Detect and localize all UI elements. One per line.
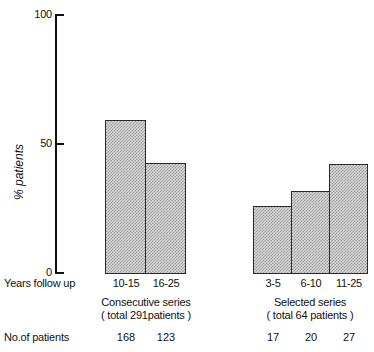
- series-caption-selected-line2: ( total 64 patients ): [251, 309, 369, 322]
- patient-count-11-25: 27: [323, 331, 374, 343]
- series-caption-selected: Selected series ( total 64 patients ): [251, 296, 369, 322]
- bar-3-5: [253, 206, 292, 274]
- x-tick-label-11-25: 11-25: [323, 277, 374, 289]
- series-caption-consecutive-line2: ( total 291patients ): [96, 309, 196, 322]
- row-label-years-follow-up: Years follow up: [4, 277, 75, 289]
- bar-6-10: [291, 191, 330, 274]
- row-label-no-of-patients: No.of patients: [4, 331, 69, 343]
- y-tick-mark-50: [57, 143, 64, 145]
- bar-16-25: [145, 163, 186, 274]
- y-tick-label-100: 100: [28, 8, 52, 20]
- x-tick-label-16-25: 16-25: [140, 277, 192, 289]
- y-tick-mark-0: [57, 272, 64, 274]
- series-caption-consecutive-line1: Consecutive series: [96, 296, 196, 309]
- bar-11-25: [329, 164, 368, 274]
- y-tick-mark-100: [57, 14, 64, 16]
- series-caption-selected-line1: Selected series: [251, 296, 369, 309]
- bar-chart: 100 50 0 % patients Years follow up 10-1…: [0, 0, 374, 352]
- patient-count-16-25: 123: [140, 331, 192, 343]
- y-axis-title: % patients: [12, 127, 26, 217]
- bar-10-15: [105, 120, 146, 274]
- y-tick-label-50: 50: [28, 137, 52, 149]
- series-caption-consecutive: Consecutive series ( total 291patients ): [96, 296, 196, 322]
